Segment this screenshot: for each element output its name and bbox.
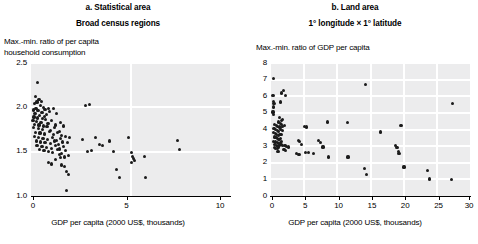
y-tick-label: 3 xyxy=(237,141,267,150)
scatter-point xyxy=(50,147,53,150)
scatter-point xyxy=(279,100,282,103)
panel-a-x-axis-line xyxy=(31,196,231,197)
x-tick-mark xyxy=(339,197,340,200)
x-tick-label: 0 xyxy=(257,201,287,210)
scatter-point xyxy=(38,131,41,134)
y-tick-label: 2.5 xyxy=(0,58,27,67)
scatter-point xyxy=(402,165,405,168)
y-tick-label: 0 xyxy=(237,191,267,200)
gridline-vertical xyxy=(370,63,372,196)
scatter-point xyxy=(40,145,43,148)
panel-a-subtitle: Broad census regions xyxy=(0,19,236,29)
y-tick-label: 4 xyxy=(237,124,267,133)
x-tick-mark xyxy=(305,197,306,200)
x-tick-label: 30 xyxy=(454,201,478,210)
panel-a-x-axis-title: GDP per capita (2000 US$, thousands) xyxy=(0,218,236,227)
y-tick-label: 1.0 xyxy=(0,191,27,200)
scatter-point xyxy=(108,139,111,142)
scatter-point xyxy=(346,155,349,158)
scatter-point xyxy=(399,124,402,127)
y-tick-label: 8 xyxy=(237,58,267,67)
scatter-point xyxy=(53,139,56,142)
x-tick-mark xyxy=(33,197,34,200)
scatter-point xyxy=(58,153,61,156)
x-tick-mark xyxy=(469,197,470,200)
scatter-point xyxy=(450,178,453,181)
x-tick-label: 10 xyxy=(205,201,235,210)
y-tick-label: 5 xyxy=(237,107,267,116)
scatter-point xyxy=(35,144,38,147)
x-tick-mark xyxy=(372,197,373,200)
scatter-point xyxy=(300,143,303,146)
scatter-point xyxy=(272,105,275,108)
x-tick-label: 20 xyxy=(390,201,420,210)
panel-b-x-axis-line xyxy=(270,196,471,197)
scatter-point xyxy=(321,145,324,148)
scatter-point xyxy=(41,137,44,140)
scatter-point xyxy=(49,142,52,145)
x-tick-label: 10 xyxy=(324,201,354,210)
gridline-vertical xyxy=(130,63,132,196)
scatter-point xyxy=(54,144,57,147)
scatter-point xyxy=(33,135,36,138)
x-tick-mark xyxy=(220,197,221,200)
scatter-point xyxy=(276,150,279,153)
scatter-point xyxy=(397,152,400,155)
panel-a-title: a. Statistical area xyxy=(0,3,236,13)
scatter-point xyxy=(143,155,146,158)
scatter-point xyxy=(40,100,43,103)
y-tick-label: 2.0 xyxy=(0,102,27,111)
scatter-point xyxy=(130,161,133,164)
scatter-point xyxy=(284,94,287,97)
x-tick-label: 5 xyxy=(112,201,142,210)
scatter-point xyxy=(61,140,64,143)
gridline-vertical xyxy=(436,63,438,196)
scatter-point xyxy=(284,149,287,152)
scatter-point xyxy=(428,177,431,180)
panel-b-subtitle: 1° longitude × 1° latitude xyxy=(237,19,473,29)
scatter-point xyxy=(48,130,51,133)
scatter-point xyxy=(305,125,308,128)
scatter-point xyxy=(287,145,290,148)
scatter-point xyxy=(39,140,42,143)
scatter-point xyxy=(326,120,329,123)
panel-b-title: b. Land area xyxy=(237,3,473,13)
x-tick-mark xyxy=(439,197,440,200)
panel-land-area: b. Land area 1° longitude × 1° latitude … xyxy=(237,0,473,244)
scatter-point xyxy=(281,118,284,121)
y-tick-label: 1 xyxy=(237,174,267,183)
scatter-point xyxy=(43,132,46,135)
x-tick-mark xyxy=(272,197,273,200)
scatter-point xyxy=(426,169,429,172)
y-tick-label: 1.5 xyxy=(0,146,27,155)
scatter-point xyxy=(176,139,179,142)
scatter-point xyxy=(47,161,50,164)
scatter-point xyxy=(37,127,40,130)
panel-statistical-area: a. Statistical area Broad census regions… xyxy=(0,0,236,244)
scatter-point xyxy=(62,124,65,127)
scatter-point xyxy=(64,135,67,138)
scatter-point xyxy=(67,154,70,157)
scatter-point xyxy=(271,94,274,97)
panel-a-y-axis-title: Max.-min. ratio of per capita household … xyxy=(4,37,99,58)
scatter-point xyxy=(36,81,39,84)
scatter-point xyxy=(34,131,37,134)
panel-b-y-axis-title: Max.-min. ratio of GDP per capita xyxy=(256,43,370,54)
x-tick-label: 5 xyxy=(290,201,320,210)
x-tick-mark xyxy=(405,197,406,200)
x-tick-mark xyxy=(127,197,128,200)
y-tick-label: 2 xyxy=(237,157,267,166)
gridline-vertical xyxy=(303,63,305,196)
scatter-point xyxy=(327,155,330,158)
scatter-point xyxy=(144,176,147,179)
gridline-vertical xyxy=(403,63,405,196)
scatter-point xyxy=(40,111,43,114)
scatter-point xyxy=(42,149,45,152)
x-tick-label: 0 xyxy=(18,201,48,210)
panel-b-x-axis-title: GDP per capita (2000 US$, thousands) xyxy=(237,218,473,227)
x-tick-label: 25 xyxy=(424,201,454,210)
x-tick-label: 15 xyxy=(357,201,387,210)
y-tick-label: 6 xyxy=(237,91,267,100)
gridline-vertical xyxy=(336,63,338,196)
